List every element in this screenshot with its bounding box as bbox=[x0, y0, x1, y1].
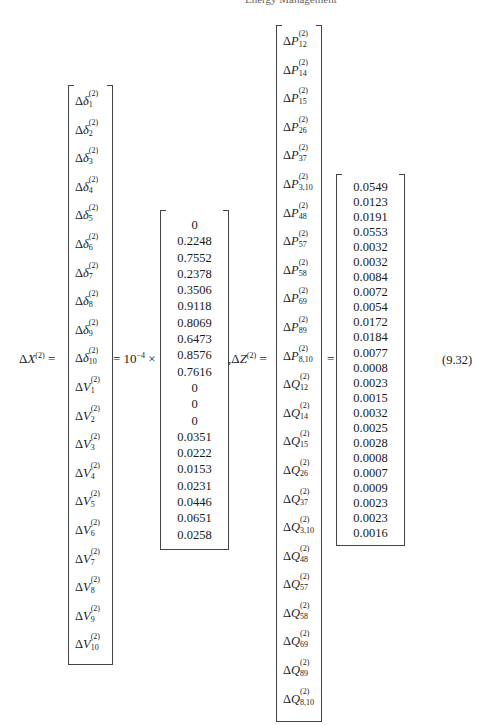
delta-symbol: Δ bbox=[283, 549, 291, 563]
equation-number: (9.32) bbox=[442, 353, 472, 368]
variable-symbol: V bbox=[83, 580, 91, 594]
times-sign: × bbox=[148, 351, 155, 366]
vector-value: 0.0153 bbox=[177, 461, 211, 477]
delta-symbol: Δ bbox=[283, 606, 291, 620]
variable-symbol: P bbox=[291, 206, 299, 220]
vector-value: 0 bbox=[191, 413, 197, 429]
vector-value: 0.0172 bbox=[353, 315, 387, 330]
index-subscript: 3 bbox=[91, 441, 95, 455]
lhs-z-label: ,ΔZ(2) = bbox=[228, 351, 267, 367]
delta-symbol: Δ bbox=[283, 634, 291, 648]
vector-value: 0.0184 bbox=[353, 330, 387, 345]
index-subscript: 7 bbox=[89, 270, 93, 284]
delta-symbol: Δ bbox=[283, 377, 291, 391]
vector-value: 0.0032 bbox=[353, 406, 387, 421]
index-subscript: 6 bbox=[89, 241, 93, 255]
index-subscript: 48 bbox=[299, 210, 307, 224]
index-subscript: 58 bbox=[300, 610, 308, 624]
vector-value: 0.2248 bbox=[177, 233, 211, 249]
variable-symbol: P bbox=[291, 148, 299, 162]
vector-value: 0.0016 bbox=[353, 526, 387, 541]
z-symbolic-vector: ΔP(2)12ΔP(2)14ΔP(2)15ΔP(2)26ΔP(2)37ΔP(2)… bbox=[276, 25, 322, 722]
vector-value: 0.0023 bbox=[353, 376, 387, 391]
vector-value: 0.9118 bbox=[178, 298, 212, 314]
variable-symbol: P bbox=[291, 34, 299, 48]
delta-symbol: Δ bbox=[283, 320, 291, 334]
z-symbol: Z bbox=[240, 351, 247, 366]
vector-value: 0.7552 bbox=[177, 250, 211, 266]
index-subscript: 4 bbox=[91, 470, 95, 484]
variable-symbol: Q bbox=[291, 663, 300, 677]
delta-symbol: Δ bbox=[283, 91, 291, 105]
index-subscript: 6 bbox=[91, 527, 95, 541]
delta-symbol: Δ bbox=[283, 492, 291, 506]
index-subscript: 26 bbox=[300, 467, 308, 481]
index-subscript: 9 bbox=[89, 327, 93, 341]
index-subscript: 8 bbox=[91, 584, 95, 598]
variable-symbol: P bbox=[291, 63, 299, 77]
vector-value: 0.0084 bbox=[353, 270, 387, 285]
variable-symbol: V bbox=[83, 437, 91, 451]
index-subscript: 2 bbox=[89, 127, 93, 141]
vector-value: 0.0023 bbox=[353, 511, 387, 526]
variable-symbol: Q bbox=[291, 606, 300, 620]
vector-value: 0 bbox=[191, 217, 197, 233]
delta-symbol: Δ bbox=[283, 663, 291, 677]
vector-value: 0.0123 bbox=[353, 195, 387, 210]
delta-symbol: Δ bbox=[75, 123, 83, 137]
vector-value: 0.0549 bbox=[353, 180, 387, 195]
vector-value: 0.0072 bbox=[353, 285, 387, 300]
vector-value: 0.0222 bbox=[177, 445, 211, 461]
scale-factor: = 10−4 × bbox=[113, 351, 156, 367]
vector-entry: ΔV(2)10 bbox=[75, 636, 107, 665]
variable-symbol: Q bbox=[291, 377, 300, 391]
delta-symbol: Δ bbox=[283, 34, 291, 48]
delta-symbol: Δ bbox=[283, 263, 291, 277]
variable-symbol: Q bbox=[291, 692, 300, 706]
delta-symbol: Δ bbox=[75, 180, 83, 194]
z-value-vector: 0.05490.01230.01910.05530.00320.00320.00… bbox=[336, 174, 405, 546]
index-subscript: 1 bbox=[89, 98, 93, 112]
vector-value: 0.0032 bbox=[353, 255, 387, 270]
index-subscript: 12 bbox=[299, 38, 307, 52]
delta-symbol: Δ bbox=[75, 351, 83, 365]
x-symbolic-vector: Δδ(2)1Δδ(2)2Δδ(2)3Δδ(2)4Δδ(2)5Δδ(2)6Δδ(2… bbox=[68, 85, 113, 665]
variable-symbol: Q bbox=[291, 406, 300, 420]
index-subscript: 37 bbox=[299, 152, 307, 166]
vector-value: 0.0023 bbox=[353, 496, 387, 511]
variable-symbol: P bbox=[291, 120, 299, 134]
index-subscript: 7 bbox=[91, 556, 95, 570]
variable-symbol: V bbox=[83, 637, 91, 651]
vector-value: 0.0651 bbox=[177, 510, 211, 526]
index-subscript: 26 bbox=[299, 124, 307, 138]
z-superscript: (2) bbox=[247, 351, 256, 360]
index-subscript: 8,10 bbox=[300, 696, 314, 710]
variable-symbol: V bbox=[83, 409, 91, 423]
index-subscript: 8 bbox=[89, 298, 93, 312]
equals-sign: = bbox=[259, 351, 266, 366]
index-subscript: 89 bbox=[300, 667, 308, 681]
scale-exponent: −4 bbox=[137, 351, 146, 360]
lhs-x-label: ΔX(2) = bbox=[19, 351, 55, 367]
index-subscript: 3 bbox=[89, 155, 93, 169]
delta-symbol: Δ bbox=[75, 409, 83, 423]
delta-symbol: Δ bbox=[283, 577, 291, 591]
delta-symbol: Δ bbox=[75, 437, 83, 451]
vector-value: 0.0231 bbox=[177, 478, 211, 494]
vector-value: 0.0009 bbox=[353, 481, 387, 496]
index-subscript: 4 bbox=[89, 184, 93, 198]
delta-symbol: Δ bbox=[75, 151, 83, 165]
delta-symbol: Δ bbox=[283, 692, 291, 706]
vector-value: 0.2378 bbox=[177, 266, 211, 282]
delta-symbol: Δ bbox=[75, 466, 83, 480]
delta-symbol: Δ bbox=[75, 266, 83, 280]
delta-symbol: Δ bbox=[75, 237, 83, 251]
vector-value: 0.0008 bbox=[353, 361, 387, 376]
equals-sign: = bbox=[48, 351, 55, 366]
variable-symbol: P bbox=[291, 177, 299, 191]
index-subscript: 69 bbox=[299, 295, 307, 309]
delta-symbol: Δ bbox=[283, 234, 291, 248]
vector-value: 0.0553 bbox=[353, 225, 387, 240]
vector-value: 0.6473 bbox=[177, 331, 211, 347]
variable-symbol: P bbox=[291, 91, 299, 105]
